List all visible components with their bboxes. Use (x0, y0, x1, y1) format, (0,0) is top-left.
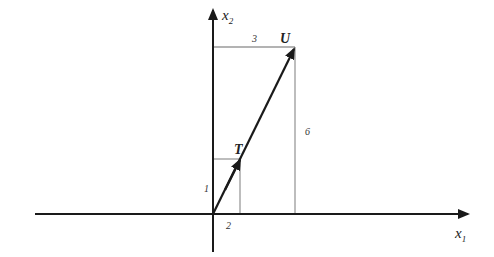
vector-t-label: T (234, 143, 243, 157)
t-vertical-component-label: 1 (204, 184, 209, 194)
vector-t-arrowhead (225, 160, 240, 190)
diagram-canvas (0, 0, 494, 257)
x1-axis-letter: x (455, 225, 462, 241)
u-vertical-component-label: 6 (305, 127, 310, 137)
x1-axis-label: x1 (455, 226, 466, 244)
u-horizontal-component-label: 3 (252, 34, 257, 44)
x2-axis-subscript: 2 (229, 16, 234, 26)
x2-axis-label: x2 (222, 8, 233, 26)
x2-axis-letter: x (222, 7, 229, 23)
vector-u-label: U (280, 32, 290, 46)
vector-diagram: x2 x1 U T 3 6 1 2 (0, 0, 494, 257)
t-horizontal-component-label: 2 (226, 221, 231, 231)
x1-axis-subscript: 1 (462, 234, 467, 244)
